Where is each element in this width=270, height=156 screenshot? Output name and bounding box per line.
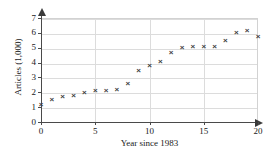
- data-point-marker: ×: [124, 80, 131, 87]
- x-axis-tick-label: 5: [85, 126, 105, 136]
- x-axis-tick: [258, 122, 259, 125]
- y-axis-title: Articles (1,000): [13, 17, 23, 117]
- gridline-vertical: [95, 19, 96, 122]
- data-point-marker: ×: [103, 87, 110, 94]
- data-point-marker: ×: [135, 67, 142, 74]
- y-axis-tick: [38, 48, 41, 49]
- x-axis-title: Year since 1983: [41, 138, 258, 149]
- y-axis-arrow-icon: [38, 8, 46, 16]
- data-point-marker: ×: [222, 37, 229, 44]
- scatter-chart-figure: Year since 1983 Articles (1,000) 0123456…: [0, 0, 270, 156]
- x-axis-tick: [41, 122, 42, 125]
- y-axis-tick-label: 7: [26, 14, 36, 23]
- data-point-marker: ×: [92, 87, 99, 94]
- x-axis-tick-label: 20: [248, 126, 268, 136]
- gridline-vertical: [204, 19, 205, 122]
- x-axis-tick-label: 10: [140, 126, 160, 136]
- data-point-marker: ×: [168, 49, 175, 56]
- x-axis-tick-label: 0: [31, 126, 51, 136]
- data-point-marker: ×: [70, 92, 77, 99]
- data-point-marker: ×: [113, 86, 120, 93]
- data-point-marker: ×: [81, 89, 88, 96]
- y-axis-tick: [38, 18, 41, 19]
- gridline-vertical: [150, 19, 151, 122]
- data-point-marker: ×: [211, 43, 218, 50]
- data-point-marker: ×: [255, 33, 262, 40]
- data-point-marker: ×: [179, 44, 186, 51]
- y-axis-tick-label: 6: [26, 28, 36, 37]
- y-axis-tick: [38, 92, 41, 93]
- y-axis-tick-label: 3: [26, 73, 36, 82]
- data-point-marker: ×: [59, 93, 66, 100]
- y-axis-tick: [38, 33, 41, 34]
- y-axis-tick: [38, 63, 41, 64]
- y-axis-tick-label: 4: [26, 58, 36, 67]
- data-point-marker: ×: [38, 101, 45, 108]
- data-point-marker: ×: [244, 27, 251, 34]
- data-point-marker: ×: [157, 58, 164, 65]
- data-point-marker: ×: [200, 43, 207, 50]
- data-point-marker: ×: [233, 29, 240, 36]
- x-axis-tick: [204, 122, 205, 125]
- x-axis-tick: [150, 122, 151, 125]
- x-axis-tick-label: 15: [194, 126, 214, 136]
- y-axis-tick-label: 2: [26, 88, 36, 97]
- data-point-marker: ×: [146, 62, 153, 69]
- data-point-marker: ×: [189, 43, 196, 50]
- x-axis-tick: [95, 122, 96, 125]
- plot-area: [41, 18, 258, 122]
- y-axis-tick-label: 5: [26, 43, 36, 52]
- y-axis-tick: [38, 77, 41, 78]
- data-point-marker: ×: [48, 96, 55, 103]
- y-axis-tick-label: 1: [26, 103, 36, 112]
